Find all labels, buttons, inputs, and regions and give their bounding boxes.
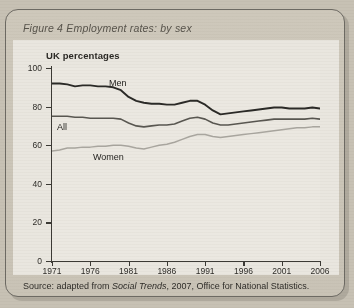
y-tick-label: 40 — [18, 179, 42, 189]
plot-area — [52, 68, 320, 261]
series-line-women — [52, 127, 320, 151]
x-tick-label: 2006 — [303, 266, 337, 276]
x-tick-label: 1976 — [73, 266, 107, 276]
source-prefix: Source: adapted from — [23, 281, 112, 291]
x-axis-line — [51, 261, 321, 262]
series-lines — [52, 68, 320, 261]
figure-page: Figure 4 Employment rates: by sex UK per… — [0, 0, 354, 308]
x-tick-label: 1981 — [112, 266, 146, 276]
x-tick-label: 2001 — [265, 266, 299, 276]
series-label-women: Women — [93, 152, 124, 162]
y-tick-label: 0 — [18, 256, 42, 266]
source-italic-title: Social Trends — [112, 281, 166, 291]
x-tick-label: 1991 — [188, 266, 222, 276]
series-line-all — [52, 116, 320, 127]
source-note: Source: adapted from Social Trends, 2007… — [23, 281, 309, 291]
figure-caption: Figure 4 Employment rates: by sex — [23, 22, 192, 34]
y-axis-line — [51, 66, 52, 263]
x-tick-label: 1986 — [150, 266, 184, 276]
y-tick-label: 60 — [18, 140, 42, 150]
x-tick-label: 1971 — [35, 266, 69, 276]
y-tick-label: 20 — [18, 217, 42, 227]
x-tick-label: 1996 — [226, 266, 260, 276]
chart-subtitle: UK percentages — [46, 50, 120, 61]
y-tick-label: 100 — [18, 63, 42, 73]
series-line-men — [52, 83, 320, 114]
y-tick-label: 80 — [18, 102, 42, 112]
series-label-men: Men — [109, 78, 127, 88]
source-suffix: , 2007, Office for National Statistics. — [166, 281, 309, 291]
series-label-all: All — [57, 122, 67, 132]
